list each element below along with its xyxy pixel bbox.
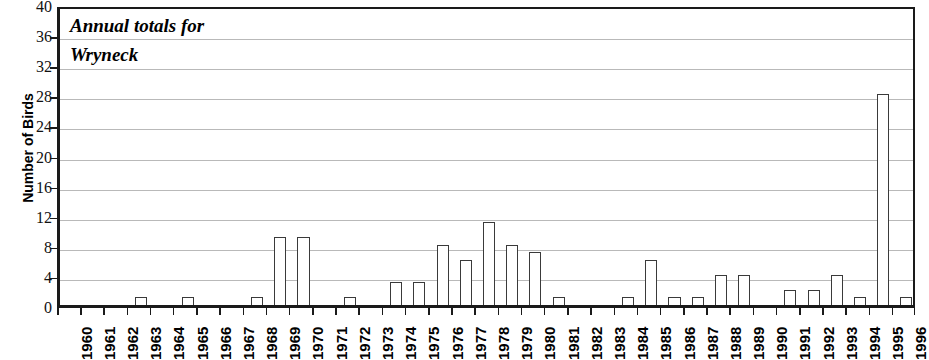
bar-1985 <box>645 260 657 305</box>
x-tick-label-1984: 1984 <box>634 314 651 360</box>
bar-1994 <box>854 297 866 305</box>
bar-1974 <box>390 282 402 305</box>
chart-title-line-2: Wryneck <box>70 40 204 69</box>
x-tick-label-1964: 1964 <box>170 314 187 360</box>
chart-title-line-1: Annual totals for <box>70 11 204 40</box>
y-tick-label-32: 32 <box>20 59 52 75</box>
x-tick-label-1993: 1993 <box>843 314 860 360</box>
x-tick-label-1970: 1970 <box>309 314 326 360</box>
bar-1988 <box>715 275 727 305</box>
x-tick-label-1995: 1995 <box>889 314 906 360</box>
y-tick-mark-20 <box>50 158 57 160</box>
x-tick-label-1960: 1960 <box>78 314 95 360</box>
x-tick-mark-1960 <box>57 308 59 315</box>
x-tick-label-1979: 1979 <box>518 314 535 360</box>
x-tick-label-1965: 1965 <box>194 314 211 360</box>
bar-1991 <box>784 290 796 305</box>
x-tick-label-1991: 1991 <box>796 314 813 360</box>
x-tick-label-1985: 1985 <box>657 314 674 360</box>
x-tick-label-1977: 1977 <box>472 314 489 360</box>
y-tick-label-16: 16 <box>20 180 52 196</box>
x-tick-label-1989: 1989 <box>750 314 767 360</box>
y-tick-label-24: 24 <box>20 119 52 135</box>
x-tick-label-1983: 1983 <box>611 314 628 360</box>
x-tick-label-1994: 1994 <box>866 314 883 360</box>
y-tick-mark-8 <box>50 248 57 250</box>
y-tick-mark-12 <box>50 218 57 220</box>
x-tick-label-1962: 1962 <box>124 314 141 360</box>
y-tick-mark-24 <box>50 127 57 129</box>
y-tick-label-4: 4 <box>20 270 52 286</box>
bar-1970 <box>297 237 309 305</box>
x-tick-label-1987: 1987 <box>704 314 721 360</box>
x-tick-label-1961: 1961 <box>101 314 118 360</box>
bar-1965 <box>182 297 194 305</box>
bar-1972 <box>344 297 356 305</box>
chart-title: Annual totals for Wryneck <box>70 11 204 70</box>
y-tick-mark-36 <box>50 37 57 39</box>
y-tick-label-12: 12 <box>20 210 52 226</box>
bar-1976 <box>437 245 449 305</box>
plot-area: Annual totals for Wryneck <box>57 7 915 308</box>
x-tick-label-1972: 1972 <box>356 314 373 360</box>
x-tick-label-1981: 1981 <box>565 314 582 360</box>
x-tick-label-1980: 1980 <box>541 314 558 360</box>
y-tick-mark-32 <box>50 67 57 69</box>
bar-1981 <box>553 297 565 305</box>
x-tick-label-1992: 1992 <box>820 314 837 360</box>
bar-1989 <box>738 275 750 305</box>
bar-1987 <box>692 297 704 305</box>
x-axis-tick-labels: 1960196119621963196419651966196719681969… <box>57 316 915 356</box>
y-tick-label-36: 36 <box>20 29 52 45</box>
x-tick-label-1990: 1990 <box>773 314 790 360</box>
x-tick-label-1975: 1975 <box>425 314 442 360</box>
x-tick-label-1971: 1971 <box>333 314 350 360</box>
x-tick-label-1976: 1976 <box>449 314 466 360</box>
x-tick-label-1986: 1986 <box>681 314 698 360</box>
x-tick-label-1973: 1973 <box>379 314 396 360</box>
y-axis-tick-labels: 0481216202428323640 <box>20 0 52 308</box>
bar-1968 <box>251 297 263 305</box>
bar-1995 <box>877 94 889 305</box>
bar-1963 <box>135 297 147 305</box>
bar-1978 <box>483 222 495 305</box>
x-tick-label-1982: 1982 <box>588 314 605 360</box>
y-tick-label-8: 8 <box>20 240 52 256</box>
x-tick-label-1966: 1966 <box>217 314 234 360</box>
y-tick-mark-4 <box>50 278 57 280</box>
x-tick-label-1967: 1967 <box>240 314 257 360</box>
x-tick-label-1988: 1988 <box>727 314 744 360</box>
bar-1979 <box>506 245 518 305</box>
y-tick-label-28: 28 <box>20 89 52 105</box>
bar-1984 <box>622 297 634 305</box>
bar-1993 <box>831 275 843 305</box>
bar-1977 <box>460 260 472 305</box>
y-tick-label-40: 40 <box>20 0 52 15</box>
y-tick-mark-28 <box>50 97 57 99</box>
bar-1980 <box>529 252 541 305</box>
bar-1996 <box>900 297 912 305</box>
bar-1975 <box>413 282 425 305</box>
y-tick-label-0: 0 <box>20 300 52 316</box>
x-tick-label-1968: 1968 <box>263 314 280 360</box>
x-tick-label-1974: 1974 <box>402 314 419 360</box>
bar-1986 <box>668 297 680 305</box>
x-tick-label-1978: 1978 <box>495 314 512 360</box>
bar-1969 <box>274 237 286 305</box>
y-tick-label-20: 20 <box>20 150 52 166</box>
x-tick-label-1963: 1963 <box>147 314 164 360</box>
x-tick-label-1996: 1996 <box>912 314 929 360</box>
bar-1992 <box>808 290 820 305</box>
x-tick-label-1969: 1969 <box>286 314 303 360</box>
y-tick-mark-16 <box>50 188 57 190</box>
